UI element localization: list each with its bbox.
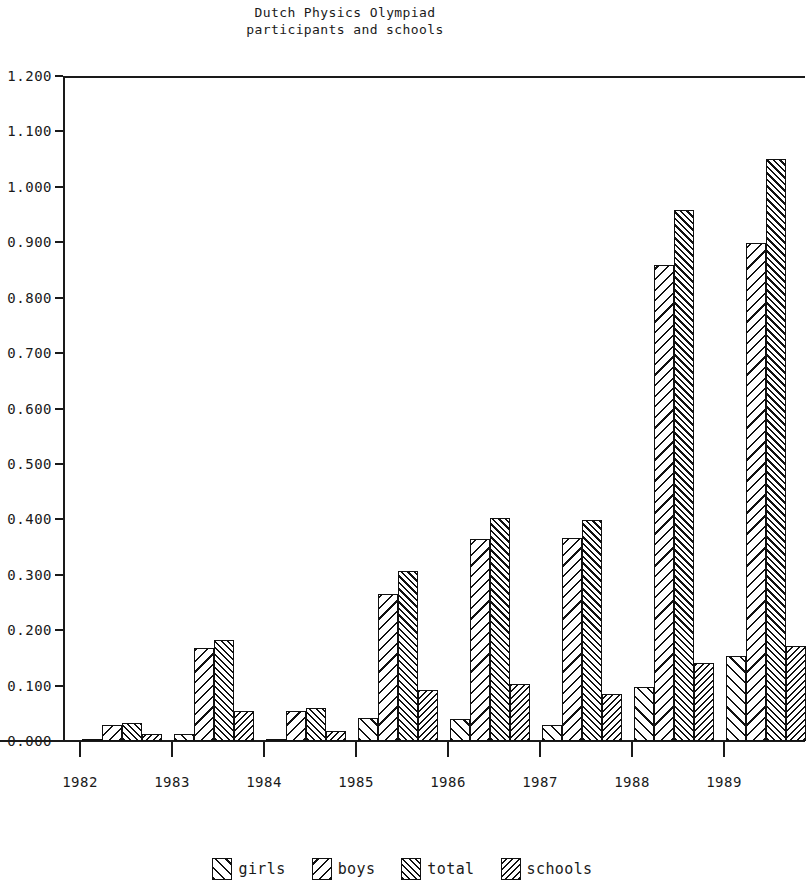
y-axis-tick xyxy=(55,408,63,410)
legend-label-total: total xyxy=(427,862,474,877)
y-axis-tick xyxy=(55,75,63,77)
y-axis-label: 1.200 xyxy=(0,69,52,83)
y-axis-label: 0.700 xyxy=(0,346,52,360)
bar-girls-1983 xyxy=(174,734,194,741)
bar-boys-1986 xyxy=(470,539,490,741)
bar-boys-1989 xyxy=(746,243,766,741)
y-axis-label: 0.200 xyxy=(0,623,52,637)
bar-total-1985 xyxy=(398,571,418,741)
bar-schools-1987 xyxy=(602,694,622,741)
y-axis-tick xyxy=(55,130,63,132)
bar-total-1984 xyxy=(306,708,326,741)
bar-total-1989 xyxy=(766,159,786,741)
legend-swatch-total-icon xyxy=(401,858,421,880)
chart-legend: girls boys total schools xyxy=(0,858,805,880)
x-axis-label: 1986 xyxy=(408,775,488,789)
bar-schools-1988 xyxy=(694,663,714,741)
x-axis-tick xyxy=(723,741,725,757)
chart-title: Dutch Physics Olympiad xyxy=(0,4,690,21)
y-axis-label: 0.900 xyxy=(0,235,52,249)
y-axis-label: 0.600 xyxy=(0,402,52,416)
legend-item-total: total xyxy=(401,858,474,880)
x-axis-label: 1983 xyxy=(132,775,212,789)
y-axis-label: 0.800 xyxy=(0,291,52,305)
legend-swatch-schools-icon xyxy=(501,858,521,880)
bar-boys-1988 xyxy=(654,265,674,741)
bar-total-1982 xyxy=(122,723,142,741)
y-axis-tick xyxy=(55,629,63,631)
bar-girls-1987 xyxy=(542,725,562,741)
bar-girls-1989 xyxy=(726,656,746,741)
x-axis-label: 1982 xyxy=(40,775,120,789)
y-axis-label: 1.100 xyxy=(0,124,52,138)
x-axis-tick xyxy=(79,741,81,757)
x-axis-tick xyxy=(263,741,265,757)
x-axis-label: 1987 xyxy=(500,775,580,789)
legend-label-girls: girls xyxy=(238,862,285,877)
y-axis-label: 0.500 xyxy=(0,457,52,471)
y-axis-tick xyxy=(55,574,63,576)
bar-total-1983 xyxy=(214,640,234,741)
x-axis-tick xyxy=(447,741,449,757)
y-axis-label: 0.300 xyxy=(0,568,52,582)
bar-girls-1982 xyxy=(82,739,102,741)
x-axis-label: 1984 xyxy=(224,775,304,789)
y-axis-tick xyxy=(55,297,63,299)
x-axis-label: 1988 xyxy=(592,775,672,789)
chart-subtitle: participants and schools xyxy=(0,21,690,38)
y-axis-tick xyxy=(55,241,63,243)
chart-title-block: Dutch Physics Olympiad participants and … xyxy=(0,4,690,38)
bar-boys-1984 xyxy=(286,711,306,741)
x-axis-tick xyxy=(171,741,173,757)
legend-label-boys: boys xyxy=(338,862,376,877)
x-axis-tick xyxy=(539,741,541,757)
bar-schools-1982 xyxy=(142,734,162,741)
bar-total-1987 xyxy=(582,520,602,741)
bar-boys-1985 xyxy=(378,594,398,741)
bar-girls-1988 xyxy=(634,687,654,741)
bar-total-1988 xyxy=(674,210,694,741)
x-axis-label: 1985 xyxy=(316,775,396,789)
y-axis-label: 0.000 xyxy=(0,734,52,748)
bar-girls-1985 xyxy=(358,718,378,741)
bar-schools-1983 xyxy=(234,711,254,741)
legend-item-boys: boys xyxy=(312,858,376,880)
bar-boys-1982 xyxy=(102,725,122,741)
bar-girls-1984 xyxy=(266,739,286,741)
legend-swatch-girls-icon xyxy=(212,858,232,880)
y-axis-label: 1.000 xyxy=(0,180,52,194)
y-axis-tick xyxy=(55,740,63,742)
x-axis-label: 1989 xyxy=(684,775,764,789)
bar-schools-1986 xyxy=(510,684,530,741)
bar-boys-1983 xyxy=(194,648,214,741)
bar-schools-1984 xyxy=(326,731,346,741)
bar-schools-1989 xyxy=(786,646,806,741)
legend-item-girls: girls xyxy=(212,858,285,880)
y-axis-tick xyxy=(55,685,63,687)
y-axis-label: 0.400 xyxy=(0,512,52,526)
y-axis-tick xyxy=(55,463,63,465)
x-axis-tick xyxy=(355,741,357,757)
y-axis-tick xyxy=(55,186,63,188)
bar-boys-1987 xyxy=(562,538,582,741)
bar-girls-1986 xyxy=(450,719,470,741)
bar-total-1986 xyxy=(490,518,510,741)
y-axis-tick xyxy=(55,352,63,354)
legend-label-schools: schools xyxy=(527,862,593,877)
bar-schools-1985 xyxy=(418,690,438,741)
legend-item-schools: schools xyxy=(501,858,593,880)
legend-swatch-boys-icon xyxy=(312,858,332,880)
y-axis-label: 0.100 xyxy=(0,679,52,693)
x-axis-tick xyxy=(631,741,633,757)
y-axis-tick xyxy=(55,518,63,520)
